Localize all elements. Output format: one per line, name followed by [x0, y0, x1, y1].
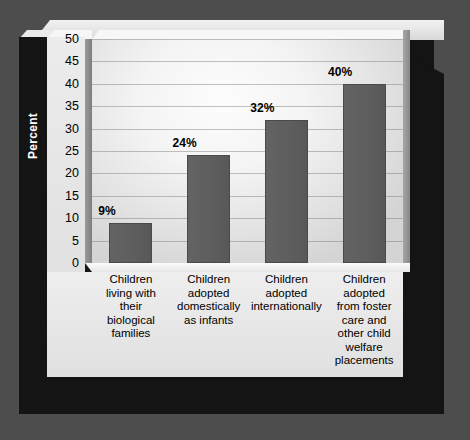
y-axis-tick-label: 15	[47, 189, 85, 203]
plot-right-bevel	[403, 30, 410, 263]
category-label-line: care and	[325, 314, 403, 328]
category-label-line: domestically	[170, 300, 248, 314]
gridline	[92, 61, 403, 62]
bar-value-label: 40%	[319, 65, 362, 79]
category-label-line: adopted	[248, 287, 326, 301]
plot-area: 9%24%32%40%	[92, 39, 403, 263]
y-axis-tick-label: 20	[47, 166, 85, 180]
category-label-line: families	[92, 327, 170, 341]
category-label-line: adopted	[325, 287, 403, 301]
y-axis-tick-label: 0	[47, 256, 85, 270]
category-label-line: living with	[92, 287, 170, 301]
category-label-line: from foster	[325, 300, 403, 314]
y-axis-title: Percent	[26, 86, 40, 186]
bar-value-label: 32%	[241, 101, 284, 115]
bar	[109, 223, 152, 263]
y-axis-tick-label: 50	[47, 32, 85, 46]
plot-floor-strip	[85, 263, 410, 272]
category-label-columns: Childrenliving withtheirbiologicalfamili…	[92, 272, 403, 377]
category-label: Childrenadoptedfrom fostercare andother …	[325, 272, 403, 377]
category-label-line: welfare	[325, 341, 403, 355]
gridline	[92, 39, 403, 40]
category-label-line: Children	[92, 273, 170, 287]
y-axis-tick-label: 5	[47, 234, 85, 248]
bar-value-label: 24%	[163, 136, 206, 150]
category-label: Childrenliving withtheirbiologicalfamili…	[92, 272, 170, 377]
y-axis-tick-label: 30	[47, 122, 85, 136]
bar-value-label: 9%	[92, 204, 128, 218]
category-label-line: as infants	[170, 314, 248, 328]
y-axis-tick-label: 35	[47, 99, 85, 113]
category-label-line: Children	[325, 273, 403, 287]
category-label: Childrenadoptedinternationally	[248, 272, 326, 377]
category-label-line: internationally	[248, 300, 326, 314]
y-axis-tick-label: 40	[47, 77, 85, 91]
y-axis-tick-label: 25	[47, 144, 85, 158]
bar	[265, 120, 308, 263]
category-label-line: other child	[325, 327, 403, 341]
category-label-line: biological	[92, 314, 170, 328]
bar	[187, 155, 230, 263]
category-label-line: adopted	[170, 287, 248, 301]
category-label-line: placements	[325, 354, 403, 368]
y-axis-wall	[85, 39, 92, 263]
category-label-line: Children	[170, 273, 248, 287]
y-axis-tick-label: 10	[47, 211, 85, 225]
y-axis-tick-label: 45	[47, 54, 85, 68]
category-label: Childrenadopteddomesticallyas infants	[170, 272, 248, 377]
category-label-line: Children	[248, 273, 326, 287]
plot-top-bevel	[92, 30, 410, 39]
y-axis-title-band: Percent	[19, 37, 47, 377]
bar	[343, 84, 386, 263]
chart-figure: Percent 50454035302520151050 9%24%32%40%…	[0, 0, 470, 440]
category-label-line: their	[92, 300, 170, 314]
